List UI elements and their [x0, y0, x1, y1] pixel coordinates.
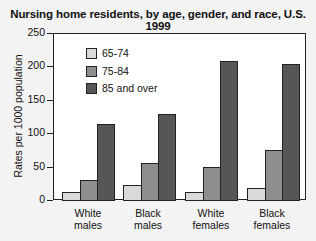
y-tick — [47, 200, 53, 201]
legend-swatch — [86, 66, 97, 77]
legend-label: 85 and over — [102, 82, 157, 94]
y-tick-label: 150 — [10, 93, 45, 105]
bar-75-84 — [265, 150, 283, 201]
legend-swatch — [86, 48, 97, 59]
y-tick-label: 200 — [10, 59, 45, 71]
x-category-label: Whitemales — [58, 207, 118, 231]
y-tick-label: 0 — [10, 193, 45, 205]
y-tick-label: 50 — [10, 160, 45, 172]
x-category-label-line: White — [58, 207, 118, 219]
x-category-label-line: Black — [242, 207, 302, 219]
x-category-label-line: Black — [118, 207, 178, 219]
bar-65-74 — [62, 192, 81, 201]
legend-label: 65-74 — [102, 47, 129, 59]
bar-85-and-over — [97, 124, 115, 201]
bar-75-84 — [141, 163, 159, 201]
x-category-label-line: White — [181, 207, 241, 219]
y-tick-label: 100 — [10, 126, 45, 138]
bar-75-84 — [203, 167, 221, 201]
x-category-label-line: males — [118, 219, 178, 231]
legend-label: 75-84 — [102, 65, 129, 77]
bar-65-74 — [247, 188, 266, 201]
x-category-label: Blackmales — [118, 207, 178, 231]
legend-swatch — [86, 83, 97, 94]
bar-75-84 — [80, 180, 98, 201]
y-tick-label: 250 — [10, 26, 45, 38]
x-category-label-line: females — [181, 219, 241, 231]
bar-65-74 — [123, 185, 142, 201]
bar-85-and-over — [220, 61, 238, 201]
x-category-label-line: females — [242, 219, 302, 231]
x-category-label-line: males — [58, 219, 118, 231]
bar-85-and-over — [282, 64, 300, 201]
x-category-label: Whitefemales — [181, 207, 241, 231]
chart-title: Nursing home residents, by age, gender, … — [0, 8, 316, 32]
bar-85-and-over — [158, 114, 176, 201]
bar-65-74 — [185, 192, 204, 201]
x-category-label: Blackfemales — [242, 207, 302, 231]
